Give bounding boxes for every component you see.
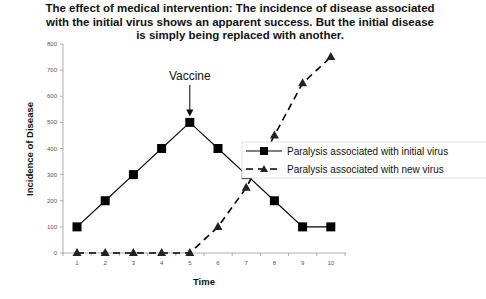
y-tick-label: 500 [47, 119, 58, 125]
legend-label: Paralysis associated with new virus [287, 164, 444, 175]
square-marker [270, 196, 279, 205]
y-axis-label: Incidence of Disease [24, 102, 35, 196]
square-marker [185, 118, 194, 127]
x-tick-label: 1 [75, 260, 79, 266]
y-tick-label: 400 [47, 146, 58, 152]
square-marker [214, 144, 223, 153]
triangle-marker [242, 183, 251, 191]
square-marker [101, 196, 110, 205]
legend-label: Paralysis associated with initial virus [287, 146, 448, 157]
x-tick-label: 7 [245, 260, 249, 266]
legend: Paralysis associated with initial virusP… [242, 142, 486, 178]
legend-square-marker [260, 147, 268, 155]
line-chart: 0100200300400500600700800 12345678910 In… [0, 0, 486, 299]
y-tick-label: 200 [47, 198, 58, 204]
square-marker [73, 222, 82, 231]
y-tick-label: 300 [47, 172, 58, 178]
square-marker [129, 170, 138, 179]
x-tick-label: 10 [327, 260, 334, 266]
x-tick-label: 5 [188, 260, 192, 266]
x-tick-label: 4 [160, 260, 164, 266]
x-axis-label: Time [193, 276, 215, 287]
x-tick-label: 8 [273, 260, 277, 266]
y-tick-label: 800 [47, 41, 58, 47]
triangle-marker [298, 78, 307, 86]
triangle-marker [270, 130, 279, 138]
y-tick-label: 600 [47, 93, 58, 99]
annotation-label: Vaccine [169, 69, 211, 83]
square-marker [157, 144, 166, 153]
y-tick-label: 100 [47, 224, 58, 230]
triangle-marker [157, 248, 166, 256]
vaccine-annotation: Vaccine [169, 69, 211, 116]
x-tick-label: 9 [301, 260, 305, 266]
arrow-down-icon [186, 109, 193, 116]
y-tick-label: 0 [54, 250, 58, 256]
triangle-marker [326, 52, 335, 60]
triangle-marker [73, 248, 82, 256]
x-tick-label: 2 [104, 260, 108, 266]
y-axis-ticks: 0100200300400500600700800 [47, 41, 63, 256]
triangle-marker [101, 248, 110, 256]
square-marker [326, 222, 335, 231]
triangle-marker [185, 248, 194, 256]
square-marker [298, 222, 307, 231]
y-tick-label: 700 [47, 67, 58, 73]
x-tick-label: 3 [132, 260, 136, 266]
triangle-marker [129, 248, 138, 256]
x-tick-label: 6 [216, 260, 220, 266]
